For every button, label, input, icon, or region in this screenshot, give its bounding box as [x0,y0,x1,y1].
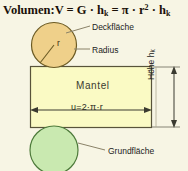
grundflaeche-leader-line [78,143,105,150]
mantel-rectangle [31,67,152,128]
hoehe-label: Höhe hk [146,49,156,80]
grundflaeche-circle [30,126,78,171]
radius-label: Radius [92,45,118,55]
umfang-label: u=2·π·r [71,102,103,112]
cylinder-net-diagram: Volumen:V = G · hk = π · r2 · hk Deckflä [0,0,188,171]
grundflaeche-label: Grundfläche [108,146,154,156]
mantel-label: Mantel [76,80,110,91]
hoehe-label-text: Höhe h [146,53,156,80]
radius-symbol-label: r [57,38,60,48]
hoehe-label-sub: k [149,49,156,52]
deckflaeche-label: Deckfläche [92,22,134,32]
